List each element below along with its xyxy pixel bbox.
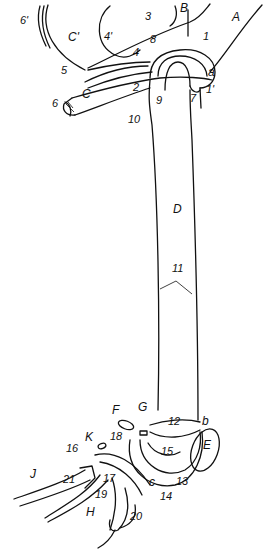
label-9: 9: [156, 95, 162, 106]
label-14: 14: [160, 491, 172, 502]
label-D: D: [173, 203, 182, 215]
label-4-prime: 4': [104, 31, 112, 42]
label-J: J: [30, 468, 36, 480]
label-21: 21: [63, 474, 75, 485]
sesamoid-K: [97, 442, 106, 449]
label-6: 6: [52, 98, 58, 109]
label-5: 5: [61, 65, 67, 76]
label-b: b: [202, 415, 209, 427]
label-18: 18: [110, 431, 122, 442]
label-3: 3: [145, 11, 151, 22]
label-4: 4: [133, 47, 139, 58]
label-6-prime: 6': [20, 15, 28, 26]
label-F: F: [112, 404, 119, 416]
label-E: E: [203, 439, 211, 451]
label-1: 1: [203, 31, 209, 42]
label-11: 11: [172, 263, 183, 274]
label-20: 20: [130, 511, 142, 522]
label-C-prime: C': [68, 31, 79, 43]
label-G: G: [138, 401, 147, 413]
label-1-prime: 1': [206, 84, 214, 95]
sesamoid-G: [140, 431, 147, 435]
label-8: 8: [150, 34, 156, 45]
label-16: 16: [66, 443, 78, 454]
scapula-outline: [46, 5, 85, 70]
label-15: 15: [161, 446, 173, 457]
label-C: C: [82, 88, 91, 100]
label-K: K: [85, 431, 93, 443]
humerus-shaft: [149, 80, 159, 410]
label-c: c: [149, 476, 155, 488]
label-a: a: [208, 66, 215, 78]
label-19: 19: [95, 489, 107, 500]
label-A: A: [232, 11, 240, 23]
label-17: 17: [103, 473, 115, 484]
label-B: B: [180, 2, 188, 14]
label-2: 2: [133, 82, 139, 93]
label-10: 10: [128, 114, 140, 125]
label-H: H: [86, 506, 95, 518]
label-13: 13: [176, 476, 188, 487]
label-7: 7: [190, 93, 196, 104]
label-12: 12: [168, 416, 180, 427]
